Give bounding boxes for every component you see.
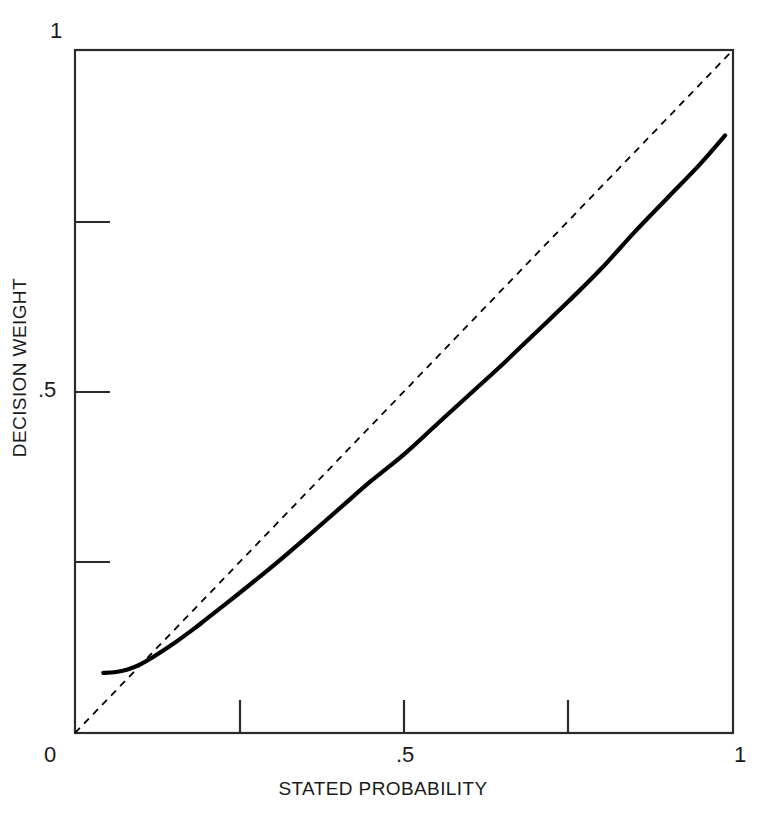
decision-weight-curve: [103, 135, 725, 673]
y-axis-title: DECISION WEIGHT: [9, 278, 31, 457]
y-axis-label-mid: .5: [38, 377, 56, 403]
plot-canvas: [0, 0, 766, 815]
x-axis-label-max: 1: [734, 742, 746, 768]
identity-reference-line: [75, 50, 733, 733]
x-axis-ticks: [240, 700, 568, 733]
x-axis-label-min: 0: [44, 742, 56, 768]
y-axis-label-max: 1: [50, 18, 62, 44]
x-axis-label-mid: .5: [396, 742, 414, 768]
y-axis-ticks: [75, 222, 110, 562]
chart-figure: 1 .5 0 .5 1 STATED PROBABILITY DECISION …: [0, 0, 766, 815]
x-axis-title: STATED PROBABILITY: [0, 778, 766, 800]
